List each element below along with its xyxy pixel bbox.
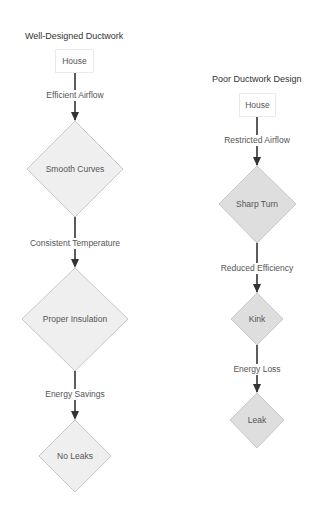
edge-label-consistent-temperature: Consistent Temperature <box>29 238 121 249</box>
node-house-poor[interactable]: House <box>239 93 276 117</box>
node-label-proper-insulation: Proper Insulation <box>43 314 107 324</box>
node-house-good[interactable]: House <box>55 49 94 73</box>
cluster-title-poor: Poor Ductwork Design <box>212 74 302 84</box>
edge-label-energy-savings: Energy Savings <box>44 389 106 400</box>
arrowhead-icon <box>71 411 79 420</box>
node-label-smooth-curves: Smooth Curves <box>46 164 105 174</box>
node-label-leak: Leak <box>248 415 266 425</box>
arrowhead-icon <box>253 384 261 393</box>
edge-label-reduced-efficiency: Reduced Efficiency <box>220 263 295 274</box>
node-label-sharp-turn: Sharp Turn <box>236 199 278 209</box>
arrowhead-icon <box>253 284 261 293</box>
edge-label-efficient-airflow: Efficient Airflow <box>45 90 104 101</box>
node-label-kink: Kink <box>249 314 266 324</box>
arrowhead-icon <box>71 259 79 268</box>
arrowhead-icon <box>253 157 261 166</box>
edge-label-restricted-airflow: Restricted Airflow <box>223 135 291 146</box>
edge-label-energy-loss: Energy Loss <box>232 364 281 375</box>
cluster-title-good: Well-Designed Ductwork <box>25 31 123 41</box>
node-label-no-leaks: No Leaks <box>57 451 93 461</box>
arrowhead-icon <box>71 112 79 121</box>
